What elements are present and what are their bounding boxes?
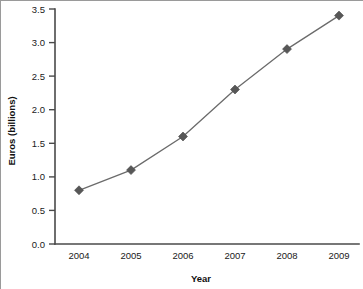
x-tick-label-2006: 2006 — [172, 250, 193, 261]
x-tick-label-2009: 2009 — [328, 250, 349, 261]
y-tick-label-2: 1.0 — [32, 171, 45, 182]
y-tick-label-7: 3.5 — [32, 4, 45, 15]
y-tick-label-6: 3.0 — [32, 37, 45, 48]
y-tick-label-1: 0.5 — [32, 205, 45, 216]
y-tick-label-3: 1.5 — [32, 138, 45, 149]
x-tick-label-2004: 2004 — [68, 250, 89, 261]
x-tick-label-2005: 2005 — [120, 250, 141, 261]
chart-figure: 0.0 0.5 1.0 1.5 2.0 2.5 3.0 3.5 2004 200… — [0, 0, 363, 289]
x-tick-label-2008: 2008 — [276, 250, 297, 261]
line-chart: 0.0 0.5 1.0 1.5 2.0 2.5 3.0 3.5 2004 200… — [1, 1, 363, 289]
y-tick-label-0: 0.0 — [32, 239, 45, 250]
y-axis-title: Euros (billions) — [6, 96, 17, 165]
x-tick-label-2007: 2007 — [224, 250, 245, 261]
y-tick-label-5: 2.5 — [32, 71, 45, 82]
y-tick-label-4: 2.0 — [32, 104, 45, 115]
x-axis-title: Year — [191, 273, 211, 284]
